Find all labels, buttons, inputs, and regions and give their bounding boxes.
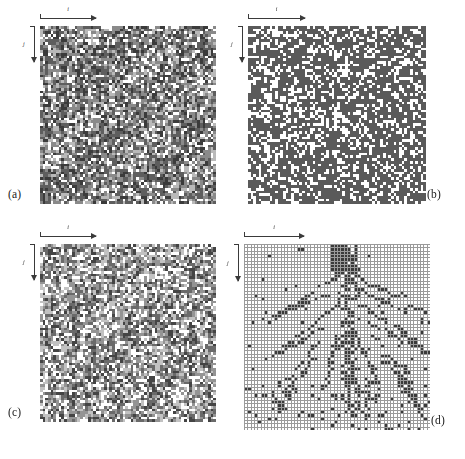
panel-d-y-axis: j [232, 244, 241, 281]
lattice-grid-d [244, 244, 430, 430]
x-axis-label: i [273, 224, 275, 230]
arrow-head-icon [235, 276, 241, 282]
panel-d: i j (d) [0, 0, 465, 459]
panel-d-x-axis: i [244, 230, 304, 239]
panel-label-d: (d) [431, 414, 445, 426]
axis-line [244, 236, 304, 237]
figure-container: i j (a) i j (b) [0, 0, 465, 459]
y-axis-label: j [227, 260, 229, 266]
arrow-head-icon [299, 233, 305, 239]
lattice-gridlines-d [244, 244, 430, 430]
